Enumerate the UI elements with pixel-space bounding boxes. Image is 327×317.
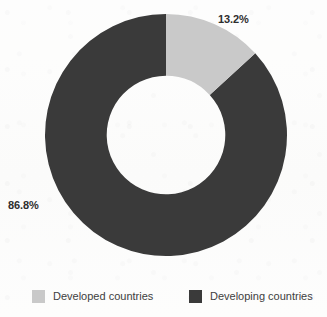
legend-label-developing: Developing countries [210,290,313,303]
legend-label-developed: Developed countries [53,290,153,303]
legend-item-developed-countries[interactable]: Developed countries [32,288,153,304]
data-label-developing-percent: 86.8% [8,199,39,211]
legend-swatch-developing-icon [189,290,202,303]
legend-item-developing-countries[interactable]: Developing countries [189,288,313,304]
donut-chart: 13.2% 86.8% [0,0,327,280]
chart-legend: Developed countries Developing countries [0,286,327,308]
data-label-developed-percent: 13.2% [218,13,249,25]
donut-chart-svg [0,0,327,280]
legend-swatch-developed-icon [32,290,45,303]
